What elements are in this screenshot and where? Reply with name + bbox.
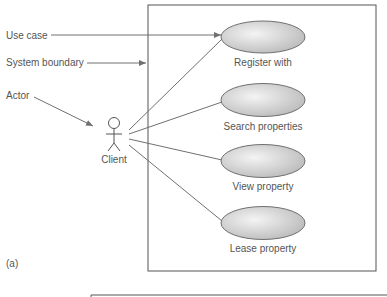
- use-case-ellipse: [221, 21, 305, 53]
- panel-label: (a): [6, 258, 18, 269]
- association-register: [129, 39, 222, 130]
- actor-label: Client: [101, 154, 127, 165]
- actor-head-icon: [109, 118, 120, 129]
- use-case-label: Search properties: [224, 121, 303, 132]
- callout-system-boundary: System boundary: [6, 57, 84, 68]
- use-case-ellipse: [221, 84, 305, 117]
- use-case-label: Register with: [234, 57, 292, 68]
- use-case-label: View property: [233, 181, 294, 192]
- association-search: [129, 102, 222, 134]
- use-case-ellipse: [221, 207, 305, 240]
- actor-client: [106, 118, 122, 152]
- use-case-diagram: Use case System boundary Actor Client Re…: [0, 0, 387, 297]
- use-case-search: Search properties: [221, 84, 305, 133]
- callout-arrow-actor: [34, 97, 93, 126]
- use-case-ellipse: [221, 145, 305, 178]
- callout-use-case: Use case: [6, 30, 48, 41]
- use-case-view: View property: [221, 145, 305, 193]
- use-case-register: Register with: [221, 21, 305, 68]
- use-case-lease: Lease property: [221, 207, 305, 255]
- callout-actor: Actor: [6, 90, 30, 101]
- use-case-label: Lease property: [230, 243, 297, 254]
